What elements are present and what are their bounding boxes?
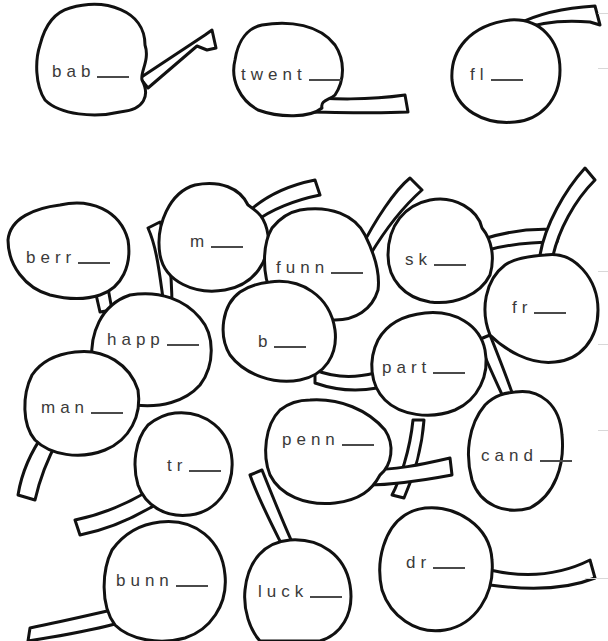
cherry-word-happ: happ: [107, 330, 199, 350]
answer-blank[interactable]: [167, 344, 199, 346]
cherry-word-bunn: bunn: [116, 571, 208, 591]
word-stem: sk: [405, 250, 432, 270]
cherry-word-berr: berr: [26, 248, 110, 268]
answer-blank[interactable]: [491, 79, 523, 81]
cherry-word-bab: bab: [52, 62, 129, 82]
margin-rule: [585, 578, 608, 579]
cherry-word-cand: cand: [481, 446, 572, 466]
cherry-word-fr: fr: [512, 298, 566, 318]
answer-blank[interactable]: [309, 79, 341, 81]
margin-rule: [598, 430, 608, 431]
cherry-word-tr: tr: [167, 456, 221, 476]
word-stem: twent: [241, 65, 307, 85]
cherry-penn-drawing: [266, 400, 391, 504]
margin-rule: [598, 271, 608, 272]
answer-blank[interactable]: [433, 567, 465, 569]
answer-blank[interactable]: [310, 596, 342, 598]
cherry-word-luck: luck: [258, 582, 342, 602]
cherry-word-b: b: [258, 332, 306, 352]
answer-blank[interactable]: [540, 460, 572, 462]
answer-blank[interactable]: [331, 272, 363, 274]
cherry-word-man: man: [41, 398, 123, 418]
answer-blank[interactable]: [189, 470, 221, 472]
word-stem: bab: [52, 62, 95, 82]
answer-blank[interactable]: [433, 372, 465, 374]
answer-blank[interactable]: [534, 312, 566, 314]
word-stem: man: [41, 398, 89, 418]
answer-blank[interactable]: [274, 346, 306, 348]
cherry-bab-drawing: [37, 5, 216, 115]
cherry-word-twent: twent: [241, 65, 341, 85]
margin-rule: [598, 13, 608, 14]
word-stem: luck: [258, 582, 308, 602]
margin-rule: [598, 68, 608, 69]
cherry-word-penn: penn: [282, 430, 374, 450]
cherry-word-m: m: [190, 232, 243, 252]
answer-blank[interactable]: [91, 412, 123, 414]
answer-blank[interactable]: [342, 444, 374, 446]
word-stem: cand: [481, 446, 538, 466]
cherry-word-sk: sk: [405, 250, 466, 270]
word-stem: b: [258, 332, 272, 352]
word-stem: penn: [282, 430, 340, 450]
word-stem: dr: [406, 553, 431, 573]
answer-blank[interactable]: [97, 76, 129, 78]
word-stem: part: [382, 358, 431, 378]
cherry-word-part: part: [382, 358, 465, 378]
answer-blank[interactable]: [434, 264, 466, 266]
margin-rule: [598, 344, 608, 345]
answer-blank[interactable]: [211, 246, 243, 248]
word-stem: berr: [26, 248, 76, 268]
answer-blank[interactable]: [176, 585, 208, 587]
word-stem: happ: [107, 330, 165, 350]
cherry-word-funn: funn: [276, 258, 363, 278]
cherry-word-dr: dr: [406, 553, 465, 573]
word-stem: bunn: [116, 571, 174, 591]
word-stem: tr: [167, 456, 187, 476]
word-stem: fl: [470, 65, 489, 85]
word-stem: m: [190, 232, 209, 252]
cherry-word-fl: fl: [470, 65, 523, 85]
word-stem: fr: [512, 298, 532, 318]
cherry-worksheet-drawing: [0, 0, 608, 641]
word-stem: funn: [276, 258, 329, 278]
answer-blank[interactable]: [78, 262, 110, 264]
